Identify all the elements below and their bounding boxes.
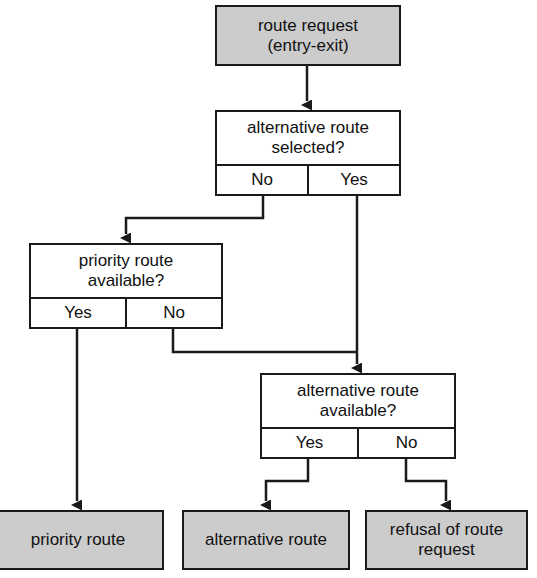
node-end-refusal-of-route-request: refusal of route request [365,510,528,570]
node-decision-priority-line2: available? [88,271,165,290]
option-priority-yes[interactable]: Yes [31,299,125,327]
node-decision-alt-available-line1: alternative route [297,381,419,400]
edge-alt-selected-no-to-priority [126,196,263,234]
option-alt-selected-no[interactable]: No [217,166,307,194]
node-end-alternative-route-label: alternative route [184,512,348,568]
node-decision-alt-selected-line2: selected? [272,138,345,157]
node-end-refusal-label: refusal of route request [367,512,526,568]
node-start-line2: (entry-exit) [267,36,348,55]
node-decision-alt-selected-line1: alternative route [247,118,369,137]
node-decision-alt-available-options: Yes No [262,427,454,457]
node-start-label: route request (entry-exit) [217,7,399,64]
node-end-refusal-line2: request [418,540,475,559]
node-decision-alt-available-question: alternative route available? [262,375,454,427]
node-end-priority-route: priority route [0,510,164,570]
node-end-refusal-line1: refusal of route [390,520,503,539]
node-decision-priority-question: priority route available? [31,245,221,297]
flowchart-canvas: route request (entry-exit) alternative r… [0,0,537,578]
option-alt-available-yes[interactable]: Yes [262,429,357,457]
edge-priority-no-to-alt-available [173,329,357,352]
node-decision-alt-available-line2: available? [320,401,397,420]
node-decision-alternative-route-available: alternative route available? Yes No [260,373,456,459]
edge-alt-available-yes-to-alternative-route [266,459,308,501]
node-decision-priority-options: Yes No [31,297,221,327]
node-decision-priority-route-available: priority route available? Yes No [29,243,223,329]
node-decision-alternative-route-selected: alternative route selected? No Yes [215,110,401,196]
edge-alt-available-no-to-refusal [406,459,446,501]
node-end-alternative-route: alternative route [182,510,350,570]
node-decision-alt-selected-options: No Yes [217,164,399,194]
node-end-priority-route-label: priority route [0,512,162,568]
node-decision-priority-line1: priority route [79,251,173,270]
node-start-route-request: route request (entry-exit) [215,5,401,66]
node-start-line1: route request [258,16,358,35]
node-decision-alt-selected-question: alternative route selected? [217,112,399,164]
option-alt-selected-yes[interactable]: Yes [307,166,399,194]
option-priority-no[interactable]: No [125,299,221,327]
option-alt-available-no[interactable]: No [357,429,454,457]
